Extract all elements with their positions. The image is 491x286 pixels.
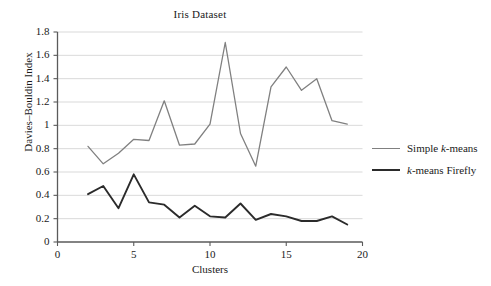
series-lines — [88, 43, 347, 225]
chart-figure: Iris Dataset 00.20.40.60.811.21.41.61.8 … — [0, 0, 491, 286]
x-tick-label: 20 — [351, 248, 375, 260]
legend-label: k-means Firefly — [407, 164, 476, 176]
legend-item-1[interactable]: Simple k-means — [372, 137, 490, 159]
chart-legend: Simple k-meansk-means Firefly — [372, 137, 490, 181]
x-tick-label: 15 — [274, 248, 298, 260]
series-line-1 — [88, 43, 347, 167]
y-tick-label: 0.2 — [20, 212, 50, 224]
gridlines — [58, 32, 363, 219]
y-tick-label: 0 — [20, 235, 50, 247]
x-tick-label: 5 — [122, 248, 146, 260]
legend-item-2[interactable]: k-means Firefly — [372, 159, 490, 181]
x-tick-label: 10 — [198, 248, 222, 260]
series-line-2 — [88, 174, 347, 224]
legend-label: Simple k-means — [407, 142, 478, 154]
legend-line-swatch — [372, 169, 400, 171]
y-tick-label: 0.4 — [20, 188, 50, 200]
axis-lines — [58, 32, 363, 242]
x-tick-label: 0 — [46, 248, 70, 260]
legend-line-swatch — [372, 148, 400, 149]
y-axis-label: Davies–Bouldin Index — [22, 22, 34, 182]
x-axis-label: Clusters — [145, 263, 275, 275]
